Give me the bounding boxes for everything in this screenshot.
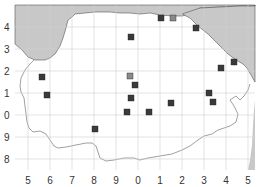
map: 4 3 2 1 0 9 8 5 6 7 8 9 0 1 2 3 4 5 — [0, 0, 264, 187]
square-marker-icon[interactable] — [231, 59, 237, 65]
y-tick-label: 9 — [4, 132, 10, 143]
square-marker-icon[interactable] — [158, 15, 164, 21]
x-tick-label: 5 — [25, 175, 31, 186]
x-tick-label: 3 — [201, 175, 207, 186]
square-marker-icon[interactable] — [44, 92, 50, 98]
square-marker-icon[interactable] — [128, 34, 134, 40]
square-marker-icon[interactable] — [210, 99, 216, 105]
square-marker-icon[interactable] — [124, 109, 130, 115]
square-marker-icon[interactable] — [132, 82, 138, 88]
x-tick-label: 2 — [179, 175, 185, 186]
x-tick-label: 8 — [91, 175, 97, 186]
square-marker-icon[interactable] — [39, 74, 45, 80]
square-marker-icon[interactable] — [193, 25, 199, 31]
square-marker-icon[interactable] — [92, 126, 98, 132]
y-tick-label: 4 — [4, 22, 10, 33]
square-marker-icon[interactable] — [128, 95, 134, 101]
x-tick-label: 7 — [69, 175, 75, 186]
square-marker-icon[interactable] — [206, 90, 212, 96]
square-marker-icon[interactable] — [218, 65, 224, 71]
x-tick-label: 5 — [245, 175, 251, 186]
x-axis-labels: 5 6 7 8 9 0 1 2 3 4 5 — [25, 175, 251, 186]
y-tick-label: 3 — [4, 44, 10, 55]
square-marker-icon[interactable] — [168, 100, 174, 106]
square-marker-icon[interactable] — [127, 73, 133, 79]
y-tick-label: 1 — [4, 88, 10, 99]
y-tick-label: 0 — [4, 110, 10, 121]
y-axis-labels: 4 3 2 1 0 9 8 — [4, 22, 10, 165]
x-tick-label: 1 — [157, 175, 163, 186]
x-tick-label: 4 — [223, 175, 229, 186]
x-tick-label: 0 — [135, 175, 141, 186]
y-tick-label: 2 — [4, 66, 10, 77]
x-tick-label: 6 — [47, 175, 53, 186]
y-tick-label: 8 — [4, 154, 10, 165]
square-marker-icon[interactable] — [146, 109, 152, 115]
x-tick-label: 9 — [113, 175, 119, 186]
square-marker-icon[interactable] — [170, 15, 176, 21]
